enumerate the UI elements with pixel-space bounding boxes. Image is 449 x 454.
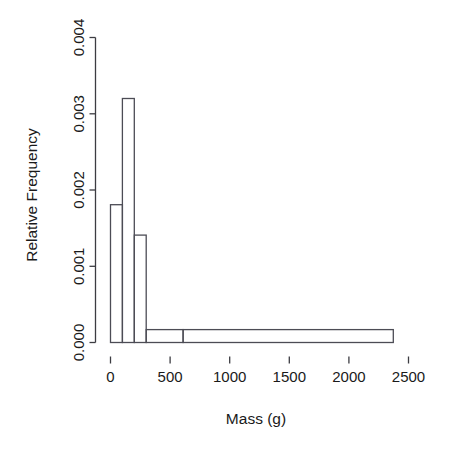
histogram-plot: 0.000 0.001 0.002 0.003 0.004 Relative F… xyxy=(0,0,449,454)
histogram-bars xyxy=(111,99,394,343)
y-tick-label-3: 0.003 xyxy=(70,95,87,133)
histogram-bar xyxy=(122,99,134,343)
histogram-bar xyxy=(111,205,123,343)
y-axis: 0.000 0.001 0.002 0.003 0.004 Relative F… xyxy=(23,19,95,362)
histogram-bar xyxy=(134,235,146,342)
x-tick-label-1: 500 xyxy=(158,368,183,385)
x-axis: 0 500 1000 1500 2000 2500 Mass (g) xyxy=(106,357,425,428)
y-axis-title: Relative Frequency xyxy=(23,128,40,262)
y-tick-label-0: 0.000 xyxy=(70,324,87,362)
x-tick-label-2: 1000 xyxy=(213,368,246,385)
chart-canvas: 0.000 0.001 0.002 0.003 0.004 Relative F… xyxy=(0,0,449,454)
y-tick-label-4: 0.004 xyxy=(70,19,87,57)
y-tick-label-1: 0.001 xyxy=(70,248,87,286)
histogram-bar xyxy=(146,330,183,343)
x-tick-label-5: 2500 xyxy=(392,368,425,385)
x-tick-label-0: 0 xyxy=(106,368,114,385)
x-tick-label-3: 1500 xyxy=(273,368,306,385)
y-tick-label-2: 0.002 xyxy=(70,171,87,209)
histogram-bar xyxy=(183,330,393,343)
x-tick-label-4: 2000 xyxy=(332,368,365,385)
x-axis-title: Mass (g) xyxy=(226,410,286,427)
